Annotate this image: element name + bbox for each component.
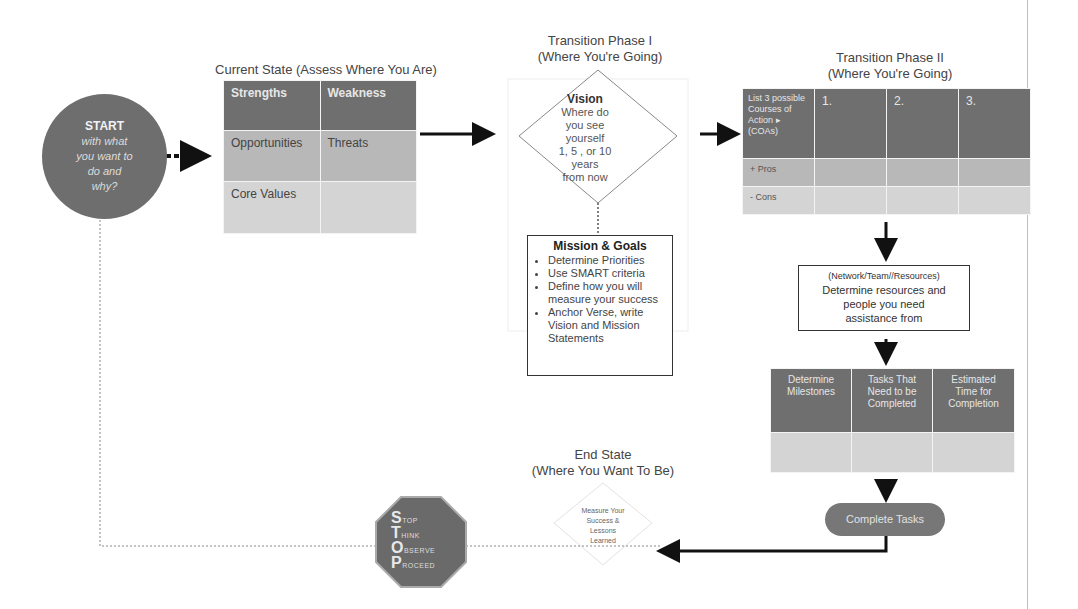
coa-cell: [815, 159, 887, 187]
stop-cap: P: [391, 554, 402, 571]
swot-cell-threats: Threats: [320, 131, 417, 182]
measure-line: Learned: [560, 536, 646, 546]
coa-table: List 3 possible Courses of Action ▸ (COA…: [742, 88, 1031, 215]
mission-bullet: Anchor Verse, write Vision and Mission S…: [548, 306, 666, 345]
transition-2-title: Transition Phase II (Where You're Going): [790, 50, 990, 82]
coa-header-1: 1.: [815, 89, 887, 159]
mission-bullets: Determine Priorities Use SMART criteria …: [534, 254, 666, 345]
end-state-title-line1: End State: [508, 447, 698, 463]
vision-line: Where do: [540, 106, 630, 119]
start-node: START with what you want to do and why?: [42, 94, 167, 219]
milestones-header: Determine Milestones: [771, 369, 852, 433]
coa-cell: [959, 187, 1031, 215]
swot-cell-core-values: Core Values: [224, 182, 321, 234]
start-heading: START: [42, 119, 167, 134]
vision-heading: Vision: [567, 92, 603, 106]
coa-cell: [959, 159, 1031, 187]
start-line: you want to: [42, 149, 167, 164]
stop-rest: HINK: [401, 532, 420, 539]
start-line: why?: [42, 179, 167, 194]
transition-1-title-line1: Transition Phase I: [500, 33, 700, 49]
end-state-title-line2: (Where You Want To Be): [508, 463, 698, 479]
mission-heading: Mission & Goals: [534, 240, 666, 253]
mission-bullet: Define how you will measure your success: [548, 280, 666, 306]
swot-cell-weakness: Weakness: [320, 81, 417, 131]
stop-rest: ROCEED: [402, 562, 435, 569]
network-resources-box: (Network/Team//Resources) Determine reso…: [798, 265, 970, 331]
swot-cell-opportunities: Opportunities: [224, 131, 321, 182]
measure-line: Measure Your: [560, 506, 646, 516]
vision-line: from now: [540, 171, 630, 184]
estimated-time-header: Estimated Time for Completion: [933, 369, 1015, 433]
network-line: people you need: [799, 297, 969, 311]
coa-cons-label: - Cons: [743, 187, 815, 215]
network-line: assistance from: [799, 311, 969, 325]
stop-sign-text: STOP THINK OBSERVE PROCEED: [391, 510, 435, 574]
swot-cell-strengths: Strengths: [224, 81, 321, 131]
swot-cell-empty: [320, 182, 417, 234]
measure-line: Lessons: [560, 526, 646, 536]
mission-goals-box: Mission & Goals Determine Priorities Use…: [527, 235, 673, 376]
mission-bullet: Use SMART criteria: [548, 267, 666, 280]
measure-line: Success &: [560, 516, 646, 526]
milestones-cell: [771, 433, 852, 473]
coa-pros-label: + Pros: [743, 159, 815, 187]
start-line: do and: [42, 164, 167, 179]
transition-1-title-line2: (Where You're Going): [500, 49, 700, 65]
current-state-title: Current State (Assess Where You Are): [196, 62, 456, 78]
arrow-complete-to-end: [662, 536, 886, 551]
end-state-title: End State (Where You Want To Be): [508, 447, 698, 479]
measure-success-text: Measure Your Success & Lessons Learned: [560, 506, 646, 546]
coa-header-3: 3.: [959, 89, 1031, 159]
start-line: with what: [42, 134, 167, 149]
transition-2-title-line2: (Where You're Going): [790, 66, 990, 82]
coa-cell: [815, 187, 887, 215]
stop-rest: BSERVE: [404, 547, 435, 554]
milestones-cell: [933, 433, 1015, 473]
complete-tasks-node: Complete Tasks: [825, 503, 945, 536]
mission-bullet: Determine Priorities: [548, 254, 666, 267]
milestones-cell: [852, 433, 933, 473]
coa-cell: [887, 187, 959, 215]
swot-table: Strengths Weakness Opportunities Threats…: [223, 80, 417, 234]
coa-header-2: 2.: [887, 89, 959, 159]
coa-cell: [887, 159, 959, 187]
coa-header-label: List 3 possible Courses of Action ▸ (COA…: [743, 89, 815, 159]
stop-rest: TOP: [402, 517, 418, 524]
network-line: (Network/Team//Resources): [799, 269, 969, 283]
vision-line: years: [540, 158, 630, 171]
transition-1-title: Transition Phase I (Where You're Going): [500, 33, 700, 65]
vision-text: Vision Where do you see yourself 1, 5 , …: [540, 93, 630, 184]
tasks-header: Tasks That Need to be Completed: [852, 369, 933, 433]
vision-line: 1, 5 , or 10: [540, 145, 630, 158]
vision-line: yourself: [540, 132, 630, 145]
milestones-table: Determine Milestones Tasks That Need to …: [770, 368, 1015, 473]
network-line: Determine resources and: [799, 283, 969, 297]
vision-line: you see: [540, 119, 630, 132]
transition-2-title-line1: Transition Phase II: [790, 50, 990, 66]
